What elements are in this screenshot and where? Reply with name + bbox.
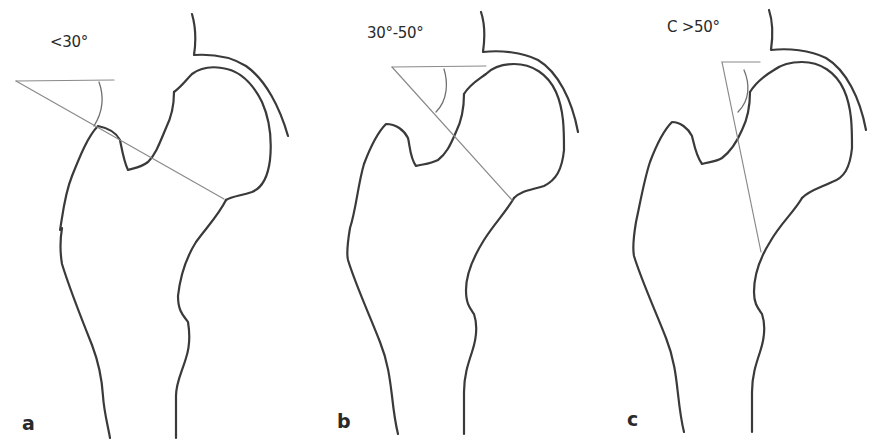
trochanter-outline — [350, 94, 464, 228]
femoral-head-outline — [174, 67, 271, 200]
medial-shaft-outline — [176, 200, 226, 438]
panel-a: <30° a — [0, 0, 300, 444]
neck-axis-line — [392, 67, 512, 200]
angle-arc — [738, 70, 748, 112]
lateral-shaft-outline — [633, 222, 684, 432]
medial-shaft-outline — [752, 198, 802, 432]
lateral-shaft-outline — [347, 228, 398, 434]
acetabulum-outline — [769, 10, 866, 130]
panel-letter-a: a — [22, 412, 35, 434]
lateral-shaft-outline — [61, 228, 111, 438]
femur-drawing-b — [300, 0, 590, 444]
femur-angle-figure: <30° a 30°-50° b C >50° c — [0, 0, 874, 444]
angle-label-b: 30°-50° — [367, 24, 424, 42]
angle-arc — [436, 69, 446, 112]
panel-letter-b: b — [337, 410, 351, 432]
trochanter-outline — [636, 92, 750, 222]
horizontal-reference-line — [392, 66, 486, 67]
neck-axis-line — [722, 62, 761, 252]
angle-arc — [94, 82, 102, 126]
femoral-head-outline — [750, 62, 852, 198]
medial-shaft-outline — [464, 198, 514, 434]
neck-axis-line — [16, 81, 224, 199]
panel-c: C >50° c — [580, 0, 874, 444]
femur-drawing-c — [580, 0, 874, 444]
panel-b: 30°-50° b — [300, 0, 590, 444]
femoral-head-outline — [464, 64, 564, 198]
femur-drawing-a — [0, 0, 300, 444]
horizontal-reference-line — [16, 80, 114, 81]
panel-letter-c: c — [627, 408, 638, 430]
acetabulum-outline — [481, 12, 578, 132]
angle-label-c: C >50° — [667, 18, 720, 36]
angle-label-a: <30° — [50, 33, 88, 51]
